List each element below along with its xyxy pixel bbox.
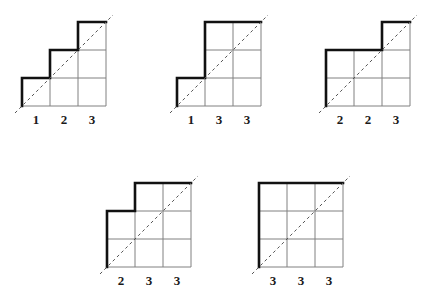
staircase-1-2-3	[15, 15, 113, 113]
column-label: 2	[333, 113, 347, 127]
column-label: 3	[294, 274, 308, 288]
staircase-3-3-3	[252, 176, 350, 274]
column-label: 3	[212, 113, 226, 127]
column-label: 1	[29, 113, 43, 127]
diagram-canvas	[0, 0, 435, 294]
staircase-2-2-3	[319, 15, 417, 113]
diagonal-line	[252, 176, 350, 274]
diagonal-line	[170, 15, 268, 113]
column-label: 3	[85, 113, 99, 127]
column-label: 3	[266, 274, 280, 288]
staircase-1-3-3	[170, 15, 268, 113]
column-label: 3	[389, 113, 403, 127]
column-label: 1	[184, 113, 198, 127]
staircase-2-3-3	[100, 176, 198, 274]
column-label: 3	[170, 274, 184, 288]
diagonal-line	[319, 15, 417, 113]
diagonal-line	[15, 15, 113, 113]
column-label: 2	[361, 113, 375, 127]
column-label: 2	[114, 274, 128, 288]
diagonal-line	[100, 176, 198, 274]
column-label: 3	[322, 274, 336, 288]
column-label: 3	[142, 274, 156, 288]
column-label: 2	[57, 113, 71, 127]
column-label: 3	[240, 113, 254, 127]
